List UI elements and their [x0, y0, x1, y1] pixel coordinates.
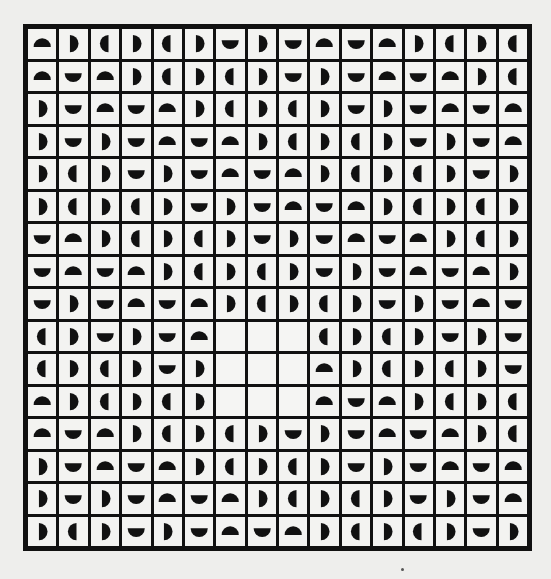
grid-tile — [185, 192, 213, 222]
grid-tile — [59, 517, 87, 547]
semicircle-right-icon — [471, 326, 491, 347]
grid-tile — [122, 484, 150, 514]
semicircle-right-icon — [346, 293, 366, 314]
grid-tile — [499, 289, 527, 319]
grid-tile — [405, 192, 433, 222]
semicircle-down-icon — [440, 326, 460, 347]
semicircle-right-icon — [95, 488, 115, 509]
semicircle-left-icon — [252, 261, 272, 282]
semicircle-right-icon — [63, 358, 83, 379]
grid-tile — [248, 289, 276, 319]
semicircle-right-icon — [32, 488, 52, 509]
semicircle-right-icon — [408, 391, 428, 412]
semicircle-right-icon — [314, 131, 334, 152]
semicircle-down-icon — [32, 228, 52, 249]
grid-tile — [216, 29, 244, 59]
grid-tile — [154, 387, 182, 417]
semicircle-right-icon — [63, 326, 83, 347]
grid-tile — [91, 127, 119, 157]
grid-tile — [185, 62, 213, 92]
semicircle-down-icon — [126, 456, 146, 477]
grid-tile — [216, 484, 244, 514]
grid-tile — [373, 62, 401, 92]
semicircle-up-icon — [220, 521, 240, 542]
semicircle-right-icon — [189, 98, 209, 119]
grid-tile — [279, 127, 307, 157]
grid-tile — [467, 62, 495, 92]
semicircle-down-icon — [408, 456, 428, 477]
semicircle-left-icon — [283, 488, 303, 509]
grid-tile — [436, 289, 464, 319]
grid-tile — [216, 322, 244, 352]
semicircle-left-icon — [471, 228, 491, 249]
grid-tile — [310, 159, 338, 189]
semicircle-right-icon — [314, 423, 334, 444]
grid-tile — [28, 94, 56, 124]
grid-tile — [279, 192, 307, 222]
grid-tile — [467, 484, 495, 514]
grid-tile — [342, 452, 370, 482]
grid-tile — [248, 354, 276, 384]
semicircle-up-icon — [377, 33, 397, 54]
grid-tile — [342, 159, 370, 189]
grid-tile — [91, 94, 119, 124]
grid-tile — [28, 452, 56, 482]
grid-tile — [279, 322, 307, 352]
grid-tile — [436, 322, 464, 352]
grid-tile — [122, 29, 150, 59]
semicircle-down-icon — [283, 66, 303, 87]
semicircle-left-icon — [283, 456, 303, 477]
semicircle-down-icon — [63, 423, 83, 444]
semicircle-right-icon — [252, 98, 272, 119]
semicircle-up-icon — [157, 456, 177, 477]
grid-tile — [405, 94, 433, 124]
semicircle-right-icon — [126, 423, 146, 444]
semicircle-right-icon — [126, 391, 146, 412]
grid-tile — [373, 192, 401, 222]
grid-tile — [216, 62, 244, 92]
semicircle-up-icon — [32, 391, 52, 412]
grid-tile — [467, 387, 495, 417]
semicircle-left-icon — [95, 391, 115, 412]
grid-tile — [122, 159, 150, 189]
semicircle-left-icon — [377, 358, 397, 379]
semicircle-right-icon — [440, 163, 460, 184]
grid-tile — [499, 517, 527, 547]
grid-tile — [154, 322, 182, 352]
grid-tile — [122, 224, 150, 254]
grid-tile — [216, 419, 244, 449]
grid-tile — [279, 257, 307, 287]
semicircle-up-icon — [377, 423, 397, 444]
grid-tile — [405, 484, 433, 514]
semicircle-left-icon — [408, 163, 428, 184]
grid-tile — [405, 159, 433, 189]
grid-tile — [91, 484, 119, 514]
grid-tile — [248, 517, 276, 547]
semicircle-down-icon — [126, 131, 146, 152]
semicircle-right-icon — [189, 456, 209, 477]
semicircle-down-icon — [408, 488, 428, 509]
semicircle-right-icon — [346, 261, 366, 282]
semicircle-left-icon — [314, 326, 334, 347]
semicircle-right-icon — [95, 163, 115, 184]
grid-tile — [59, 127, 87, 157]
semicircle-left-icon — [189, 228, 209, 249]
semicircle-down-icon — [408, 66, 428, 87]
semicircle-down-icon — [126, 521, 146, 542]
grid-tile — [185, 452, 213, 482]
grid-tile — [91, 192, 119, 222]
grid-tile — [28, 127, 56, 157]
grid-tile — [467, 322, 495, 352]
semicircle-right-icon — [471, 423, 491, 444]
semicircle-down-icon — [95, 261, 115, 282]
grid-tile — [154, 192, 182, 222]
semicircle-down-icon — [346, 423, 366, 444]
semicircle-left-icon — [346, 488, 366, 509]
semicircle-left-icon — [408, 521, 428, 542]
semicircle-down-icon — [220, 33, 240, 54]
grid-tile — [467, 29, 495, 59]
semicircle-up-icon — [95, 456, 115, 477]
semicircle-right-icon — [63, 293, 83, 314]
semicircle-down-icon — [471, 131, 491, 152]
semicircle-up-icon — [503, 488, 523, 509]
